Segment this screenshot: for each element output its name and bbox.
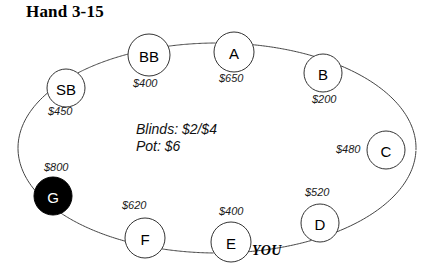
center-info-block: Blinds: $2/$4 Pot: $6 [136,121,217,155]
stack-label-c: $480 [336,143,360,155]
stack-label-e: $400 [219,205,243,217]
blinds-text: Blinds: $2/$4 [136,121,217,138]
seat-label-c: C [381,143,392,160]
table-edge-segment [18,93,47,190]
stack-label-f: $620 [122,199,146,211]
seat-label-sb: SB [56,81,76,98]
stack-label-a: $650 [219,72,243,84]
seat-c[interactable]: C [367,131,405,169]
seat-bb[interactable]: BB [128,34,170,76]
stack-label-b: $200 [312,93,336,105]
seat-label-b: B [318,66,328,83]
seat-label-a: A [229,45,239,62]
seat-a[interactable]: A [214,32,254,72]
seat-label-bb: BB [139,48,159,65]
seat-sb[interactable]: SB [47,69,85,107]
seat-f[interactable]: F [125,218,165,258]
seat-label-f: F [140,231,149,248]
table-edge-segment [168,43,216,46]
seat-d[interactable]: D [301,204,339,242]
stack-label-g: $800 [44,161,68,173]
seat-label-e: E [226,235,236,252]
stack-label-d: $520 [305,186,329,198]
pot-text: Pot: $6 [136,138,217,155]
seat-g[interactable]: G [34,177,72,215]
seat-e[interactable]: E [211,222,251,262]
seat-label-g: G [47,189,59,206]
stack-label-bb: $400 [133,77,157,89]
stack-label-sb: $450 [48,105,72,117]
seat-label-d: D [315,216,326,233]
poker-table-diagram: Hand 3-15 SBBBABCDEFG $450$400$650$200$4… [0,0,425,277]
seat-b[interactable]: B [304,54,342,92]
hero-you-marker: YOU [252,243,282,259]
table-edge-segment [78,54,128,73]
table-edge-segment [162,249,213,253]
table-edge-segment [253,45,314,57]
table-edge-segment [61,213,125,241]
